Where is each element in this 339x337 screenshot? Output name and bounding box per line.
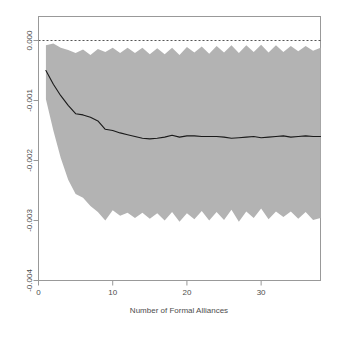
plot-canvas: 0.000-0.001-0.002-0.003-0.004 0102030 Nu… bbox=[0, 0, 339, 337]
x-axis-tick-label: 0 bbox=[36, 288, 41, 297]
x-axis-tick-label: 20 bbox=[182, 288, 191, 297]
x-axis-tick-label: 10 bbox=[108, 288, 117, 297]
x-axis-tick-label: 30 bbox=[257, 288, 266, 297]
y-axis-tick-label: -0.004 bbox=[25, 269, 34, 292]
x-axis: 0102030 bbox=[36, 281, 266, 297]
y-axis: 0.000-0.001-0.002-0.003-0.004 bbox=[25, 30, 39, 292]
y-axis-tick-label: -0.002 bbox=[25, 149, 34, 172]
chart-figure: 0.000-0.001-0.002-0.003-0.004 0102030 Nu… bbox=[0, 0, 339, 337]
y-axis-tick-label: -0.001 bbox=[25, 89, 34, 112]
confidence-band bbox=[46, 44, 321, 222]
y-axis-tick-label: -0.003 bbox=[25, 209, 34, 232]
x-axis-title: Number of Formal Alliances bbox=[130, 306, 228, 315]
y-axis-tick-label: 0.000 bbox=[25, 30, 34, 51]
